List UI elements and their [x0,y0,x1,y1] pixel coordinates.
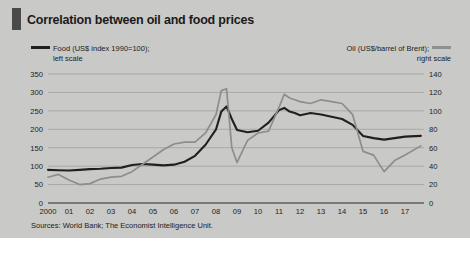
x-axis-tick: 10 [254,207,262,216]
y-axis-right-tick: 40 [429,162,437,171]
y-axis-right-tick: 60 [429,144,437,153]
x-axis-tick: 09 [233,207,241,216]
x-axis-tick: 08 [212,207,220,216]
x-axis-tick: 2000 [40,207,57,216]
y-axis-right-tick: 20 [429,180,437,189]
x-axis-tick: 11 [275,207,283,216]
y-axis-left-tick: 250 [30,107,43,116]
y-axis-right-tick: 140 [429,70,442,79]
x-axis-tick: 05 [149,207,157,216]
plot-area: 0501001502002503003500204060801001201402… [0,0,470,238]
y-axis-right-tick: 80 [429,125,437,134]
chart-svg: 0501001502002503003500204060801001201402… [0,0,470,238]
y-axis-left-tick: 150 [30,144,43,153]
x-axis-tick: 13 [317,207,325,216]
y-axis-left-tick: 350 [30,70,43,79]
x-axis-tick: 17 [401,207,409,216]
x-axis-tick: 02 [86,207,94,216]
x-axis-tick: 03 [107,207,115,216]
y-axis-left-tick: 200 [30,125,43,134]
chart-figure: Correlation between oil and food prices … [0,0,470,238]
y-axis-left-tick: 50 [35,180,43,189]
x-axis-tick: 16 [380,207,388,216]
x-axis-tick: 15 [359,207,367,216]
y-axis-right-tick: 0 [429,199,433,208]
source-note: Sources: World Bank; The Economist Intel… [31,221,213,230]
x-axis-tick: 01 [65,207,73,216]
x-axis-tick: 14 [338,207,346,216]
y-axis-left-tick: 300 [30,88,43,97]
y-axis-right-tick: 120 [429,88,442,97]
y-axis-right-tick: 100 [429,107,442,116]
x-axis-tick: 07 [191,207,199,216]
x-axis-tick: 12 [296,207,304,216]
series-line-food [48,106,421,170]
y-axis-left-tick: 100 [30,162,43,171]
x-axis-tick: 06 [170,207,178,216]
x-axis-tick: 04 [128,207,136,216]
